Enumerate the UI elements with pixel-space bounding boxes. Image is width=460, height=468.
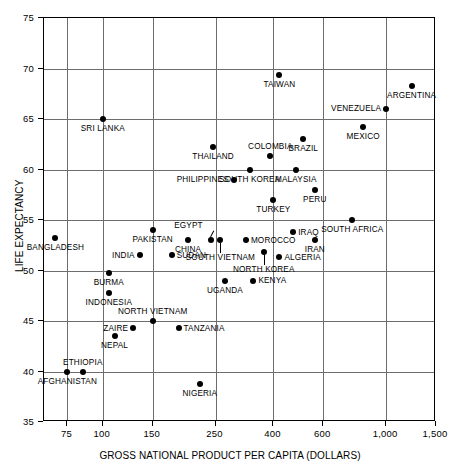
data-point	[52, 235, 58, 241]
x-axis-tick	[385, 421, 386, 426]
data-point	[276, 254, 282, 260]
x-axis-tick	[66, 421, 67, 426]
data-point-label: AFGHANISTAN	[38, 377, 97, 386]
horizontal-gridline	[44, 321, 434, 322]
data-point	[150, 318, 156, 324]
data-point	[290, 229, 296, 235]
data-point-label: SRI LANKA	[81, 124, 125, 133]
x-axis-tick	[272, 421, 273, 426]
data-point	[106, 290, 112, 296]
data-point-label: TANZANIA	[184, 324, 225, 333]
data-point	[231, 177, 237, 183]
data-point	[169, 252, 175, 258]
scatter-plot-figure: SRI LANKATAIWANARGENTINAVENEZUELAMEXICOB…	[0, 0, 460, 468]
x-axis-tick	[215, 421, 216, 426]
data-point-label: SUDAN	[177, 251, 206, 260]
x-axis-tick-label: 75	[61, 428, 72, 439]
x-axis-tick	[322, 421, 323, 426]
vertical-gridline	[216, 18, 217, 420]
data-point-label: BRAZIL	[289, 144, 319, 153]
data-point	[409, 83, 415, 89]
y-axis-label: LIFE EXPECTANCY	[14, 180, 25, 272]
data-point	[80, 369, 86, 375]
data-point-label: THAILAND	[192, 152, 234, 161]
data-point	[276, 72, 282, 78]
data-point	[250, 278, 256, 284]
data-point-label: PHILIPPINES	[177, 175, 229, 184]
y-axis-tick	[38, 169, 43, 170]
data-point-label: BURMA	[94, 278, 124, 287]
y-axis-tick-label: 35	[4, 416, 34, 427]
x-axis-tick-label: 250	[206, 428, 222, 439]
vertical-gridline	[386, 18, 387, 420]
data-point-label: SOUTH AFRICA	[321, 225, 383, 234]
data-point	[100, 116, 106, 122]
y-axis-tick	[38, 421, 43, 422]
data-point-label: MALAYSIA	[275, 175, 317, 184]
data-point	[267, 153, 273, 159]
y-axis-tick-label: 70	[4, 62, 34, 73]
vertical-gridline	[153, 18, 154, 420]
data-point	[243, 237, 249, 243]
data-point	[150, 227, 156, 233]
data-point-label: TAIWAN	[263, 80, 295, 89]
data-point-label: UGANDA	[207, 286, 243, 295]
x-axis-tick-label: 150	[143, 428, 159, 439]
x-axis-tick-label: 600	[314, 428, 330, 439]
data-point	[300, 136, 306, 142]
data-point-label: KENYA	[258, 276, 286, 285]
data-point	[270, 197, 276, 203]
plot-area: SRI LANKATAIWANARGENTINAVENEZUELAMEXICOB…	[43, 17, 435, 421]
data-point	[137, 252, 143, 258]
x-axis-tick-label: 1,500	[423, 428, 448, 439]
y-axis-tick-label: 40	[4, 365, 34, 376]
data-point-label: ALGERIA	[284, 253, 321, 262]
label-leader-line	[264, 255, 265, 265]
data-point-label: ZAIRE	[103, 324, 128, 333]
data-point	[208, 237, 214, 243]
data-point	[197, 381, 203, 387]
y-axis-tick	[38, 68, 43, 69]
data-point	[130, 325, 136, 331]
data-point-label: PERU	[303, 195, 326, 204]
data-point	[176, 325, 182, 331]
data-point	[312, 237, 318, 243]
data-point-label: IRAQ	[298, 228, 319, 237]
data-point-label: EGYPT	[174, 221, 203, 230]
data-point	[222, 278, 228, 284]
y-axis-tick	[38, 118, 43, 119]
vertical-gridline	[323, 18, 324, 420]
data-point-label: BANGLADESH	[27, 243, 84, 252]
horizontal-gridline	[44, 69, 434, 70]
data-point-label: INDIA	[112, 251, 135, 260]
horizontal-gridline	[44, 220, 434, 221]
data-point	[64, 369, 70, 375]
x-axis-tick-label: 100	[94, 428, 110, 439]
x-axis-label: GROSS NATIONAL PRODUCT PER CAPITA (DOLLA…	[0, 450, 460, 461]
x-axis-tick	[152, 421, 153, 426]
vertical-gridline	[273, 18, 274, 420]
data-point-label: COLOMBIA	[248, 142, 292, 151]
data-point-label: INDONESIA	[86, 298, 132, 307]
y-axis-tick	[38, 320, 43, 321]
data-point	[383, 106, 389, 112]
vertical-gridline	[103, 18, 104, 420]
x-axis-tick-label: 400	[264, 428, 280, 439]
data-point-label: NIGERIA	[182, 389, 217, 398]
data-point-label: MEXICO	[347, 132, 380, 141]
data-point	[185, 237, 191, 243]
y-axis-tick-label: 60	[4, 163, 34, 174]
data-point-label: NEPAL	[101, 341, 128, 350]
data-point-label: ARGENTINA	[387, 91, 436, 100]
data-point	[349, 217, 355, 223]
y-axis-tick	[38, 270, 43, 271]
y-axis-tick	[38, 219, 43, 220]
data-point	[360, 124, 366, 130]
x-axis-tick	[102, 421, 103, 426]
data-point	[312, 187, 318, 193]
data-point	[247, 167, 253, 173]
y-axis-tick-label: 65	[4, 113, 34, 124]
data-point-label: NORTH KOREA	[233, 265, 295, 274]
x-axis-tick	[435, 421, 436, 426]
data-point-label: ETHIOPIA	[63, 358, 102, 367]
